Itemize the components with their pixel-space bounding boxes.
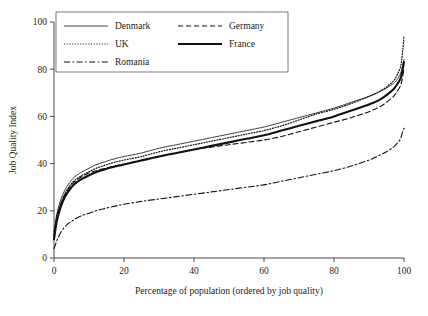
y-tick-label: 80 (38, 65, 48, 75)
series-line-denmark (54, 60, 404, 232)
y-tick-label: 60 (38, 112, 48, 122)
legend-label-germany: Germany (229, 21, 265, 31)
legend-label-france: France (229, 39, 255, 49)
legend: DenmarkUKRomaniaGermanyFrance (56, 12, 288, 72)
y-axis-title: Job Quality Index (8, 106, 18, 174)
legend-label-romania: Romania (115, 57, 150, 67)
x-tick-label: 20 (119, 266, 129, 276)
legend-label-denmark: Denmark (115, 21, 151, 31)
x-axis-title: Percentage of population (ordered by job… (135, 286, 323, 297)
y-tick-label: 100 (33, 17, 48, 27)
y-tick-label: 0 (42, 253, 47, 263)
chart-figure: 020406080100020406080100 DenmarkUKRomani… (0, 0, 428, 316)
x-tick-label: 100 (397, 266, 412, 276)
x-tick-label: 80 (329, 266, 339, 276)
series-line-france (54, 62, 404, 239)
x-tick-label: 60 (259, 266, 269, 276)
y-tick-label: 40 (38, 159, 48, 169)
y-tick-label: 20 (38, 206, 48, 216)
x-tick-label: 0 (52, 266, 57, 276)
series-line-germany (54, 69, 404, 237)
series-line-romania (54, 128, 404, 248)
x-tick-label: 40 (189, 266, 199, 276)
legend-label-uk: UK (115, 39, 129, 49)
line-chart: 020406080100020406080100 DenmarkUKRomani… (0, 0, 428, 316)
